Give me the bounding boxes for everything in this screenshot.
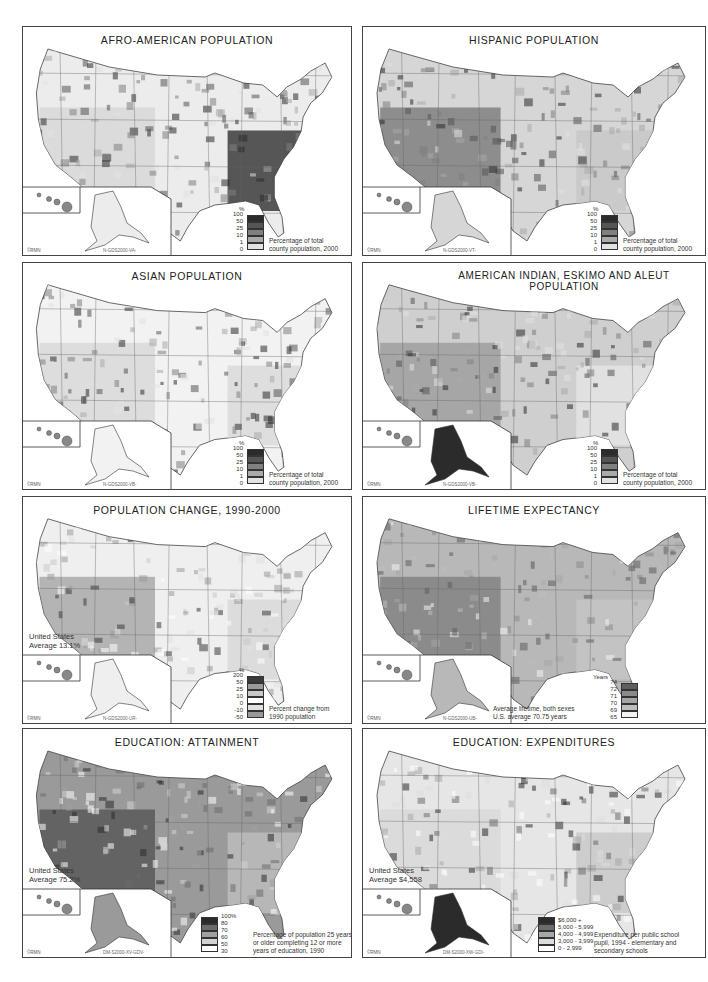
legend-tick-label: 25 xyxy=(223,225,243,231)
legend-tick-label: 0 xyxy=(223,700,243,706)
us-average-line: Average 75.2% xyxy=(29,876,80,885)
legend-tick-label: 5,000 - 5,999 xyxy=(558,924,618,930)
legend-swatch xyxy=(247,690,264,697)
legend-tick-label: 71 xyxy=(597,693,617,699)
legend-tick-label: 1 xyxy=(577,239,597,245)
legend-swatch xyxy=(621,697,638,704)
legend-tick-label: 50 xyxy=(223,218,243,224)
legend-tick-label: 25 xyxy=(223,686,243,692)
copyright-label: ©RMN xyxy=(367,248,381,253)
legend-caption-line: county population, 2000 xyxy=(623,479,692,487)
map-title: POPULATION CHANGE, 1990-2000 xyxy=(23,504,351,516)
map-panel-american-indian: AMERICAN INDIAN, ESKIMO AND ALEUT POPULA… xyxy=(362,262,706,490)
legend-tick-label: 50 xyxy=(577,452,597,458)
map-panel-population-change: POPULATION CHANGE, 1990-2000©RMNN-GDS200… xyxy=(22,496,352,724)
map-code-label: N-GDS2000-VA- xyxy=(103,248,136,253)
legend-swatch xyxy=(621,683,638,690)
legend-swatch xyxy=(538,917,555,924)
legend-caption-line: Percentage of population 25 years xyxy=(253,931,352,939)
map-code-label: DM-S2000-XV-GDV- xyxy=(103,950,144,955)
legend-swatch xyxy=(601,222,618,229)
map-title: AMERICAN INDIAN, ESKIMO AND ALEUT POPULA… xyxy=(423,270,705,292)
legend-swatch xyxy=(601,229,618,236)
map-panel-education-expenditures: EDUCATION: EXPENDITURES©RMNDM-S2000-XW-G… xyxy=(362,728,706,958)
legend-caption-line: Percentage of total xyxy=(269,237,338,245)
legend-tick-label: 0 xyxy=(577,246,597,252)
legend-caption-line: secondary schools xyxy=(594,947,679,955)
legend-tick-label: 1 xyxy=(577,473,597,479)
map-code-label: DM-S2000-XW-GDI- xyxy=(443,950,484,955)
copyright-label: ©RMN xyxy=(367,482,381,487)
map-title: ASIAN POPULATION xyxy=(23,270,351,282)
legend-caption-line: Percentage of total xyxy=(623,237,692,245)
legend-swatch xyxy=(247,236,264,243)
map-panel-lifetime-expectancy: LIFETIME EXPECTANCY©RMNN-GDS2000-UB-Year… xyxy=(362,496,706,724)
legend-swatch xyxy=(601,215,618,222)
map-code-label: N-GDS2000-VB- xyxy=(103,482,137,487)
legend-tick-label: 25 xyxy=(223,459,243,465)
map-title: LIFETIME EXPECTANCY xyxy=(363,504,705,516)
legend-swatch xyxy=(201,938,218,945)
legend-tick-label: -10 xyxy=(223,707,243,713)
legend-caption-line: 1990 population xyxy=(269,713,329,721)
legend-caption-line: Average lifetime, both sexes xyxy=(493,705,575,713)
legend-swatch xyxy=(538,938,555,945)
legend-swatch xyxy=(247,711,264,718)
legend-caption-line: Percent change from xyxy=(269,705,329,713)
legend-caption: Percentage of totalcounty population, 20… xyxy=(623,237,692,253)
map-panel-afro-american: AFRO-AMERICAN POPULATION©RMNN-GDS2000-VA… xyxy=(22,26,352,256)
legend-tick-label: 70 xyxy=(597,700,617,706)
legend-swatch xyxy=(201,924,218,931)
us-average-line: Average 13.1% xyxy=(29,642,80,651)
legend-swatch xyxy=(247,697,264,704)
legend-tick-label: 100 xyxy=(223,445,243,451)
legend-tick-label: 74 xyxy=(597,679,617,685)
copyright-label: ©RMN xyxy=(27,482,41,487)
legend-caption-line: county population, 2000 xyxy=(269,479,338,487)
legend-tick-label: 10 xyxy=(577,466,597,472)
copyright-label: ©RMN xyxy=(367,716,381,721)
legend-caption-line: pupil, 1994 - elementary and xyxy=(594,939,679,947)
legend-caption-line: or older completing 12 or more xyxy=(253,939,352,947)
legend-swatch xyxy=(247,229,264,236)
legend-swatch xyxy=(538,924,555,931)
us-average-note: United StatesAverage 13.1% xyxy=(29,633,80,650)
legend-swatch xyxy=(621,711,638,718)
legend-swatch xyxy=(247,704,264,711)
legend-tick-label: 1 xyxy=(223,473,243,479)
legend-swatch xyxy=(247,215,264,222)
legend-swatch xyxy=(247,243,264,250)
legend-tick-label: 30 xyxy=(221,948,241,954)
map-code-label: N-GDS2000-UR- xyxy=(103,716,137,721)
legend-tick-label: 0 xyxy=(223,246,243,252)
map-title: HISPANIC POPULATION xyxy=(363,34,705,46)
legend-swatch xyxy=(247,456,264,463)
legend-tick-label: 100 xyxy=(223,211,243,217)
legend-caption: Expenditure per public schoolpupil, 1994… xyxy=(594,931,679,955)
legend-caption-line: county population, 2000 xyxy=(623,245,692,253)
map-legend: Years747271706965 xyxy=(597,674,706,724)
legend-caption-line: Percentage of total xyxy=(623,471,692,479)
map-title: EDUCATION: EXPENDITURES xyxy=(363,736,705,748)
map-panel-education-attainment: EDUCATION: ATTAINMENT©RMNDM-S2000-XV-GDV… xyxy=(22,728,352,958)
legend-tick-label: 10 xyxy=(223,232,243,238)
legend-tick-label: -50 xyxy=(223,714,243,720)
legend-tick-label: 1 xyxy=(223,239,243,245)
legend-caption: Percent change from1990 population xyxy=(269,705,329,721)
legend-tick-label: 10 xyxy=(577,232,597,238)
us-average-note: United StatesAverage 75.2% xyxy=(29,867,80,884)
legend-tick-label: 100 xyxy=(577,445,597,451)
legend-caption: Percentage of population 25 yearsor olde… xyxy=(253,931,352,955)
us-average-line: Average $4,558 xyxy=(369,876,422,885)
legend-swatch xyxy=(601,243,618,250)
copyright-label: ©RMN xyxy=(27,716,41,721)
map-code-label: N-GDS2000-UB- xyxy=(443,716,477,721)
legend-swatch xyxy=(247,470,264,477)
legend-swatch xyxy=(621,704,638,711)
legend-tick-label: 70 xyxy=(221,927,241,933)
legend-tick-label: 100% xyxy=(221,913,241,919)
legend-tick-label: 60 xyxy=(221,934,241,940)
legend-swatch xyxy=(247,683,264,690)
legend-tick-label: 25 xyxy=(577,459,597,465)
legend-tick-label: 69 xyxy=(597,707,617,713)
